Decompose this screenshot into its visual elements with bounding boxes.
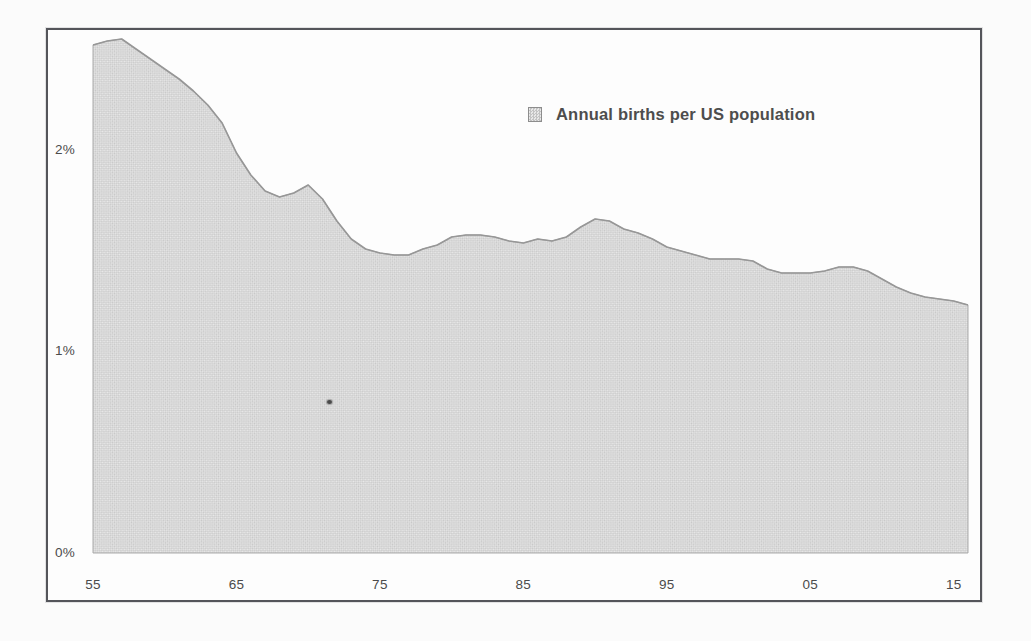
- x-tick-label: 65: [229, 577, 245, 592]
- x-tick-label: 05: [802, 577, 818, 592]
- ink-speck-artifact: [327, 400, 332, 404]
- legend: Annual births per US population: [528, 105, 815, 124]
- legend-swatch-icon: [528, 107, 542, 122]
- legend-label: Annual births per US population: [556, 105, 815, 124]
- y-tick-label: 0%: [55, 544, 75, 559]
- area-chart: [0, 0, 1031, 641]
- x-tick-label: 55: [85, 577, 101, 592]
- x-tick-label: 85: [516, 577, 532, 592]
- scanned-chart-page: 0%1%2% 55657585950515 Annual births per …: [0, 0, 1031, 641]
- x-tick-label: 95: [659, 577, 675, 592]
- x-tick-label: 15: [946, 577, 962, 592]
- x-tick-label: 75: [372, 577, 388, 592]
- y-tick-label: 1%: [55, 343, 75, 358]
- y-tick-label: 2%: [55, 141, 75, 156]
